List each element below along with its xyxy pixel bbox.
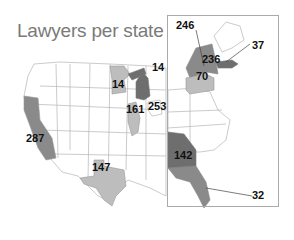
label-illinois: 161 [126, 104, 144, 115]
label-florida: 32 [252, 190, 264, 201]
label-minnesota: 14 [112, 79, 124, 90]
label-pennsylvania: 70 [196, 71, 208, 82]
label-california: 287 [26, 133, 44, 144]
label-ohio: 253 [148, 101, 166, 112]
label-massachusetts: 37 [252, 40, 264, 51]
label-michigan: 14 [152, 62, 164, 73]
label-new-york-upstate: 246 [176, 20, 194, 31]
label-georgia: 142 [174, 150, 192, 161]
label-texas: 147 [92, 162, 110, 173]
label-new-york: 236 [202, 54, 220, 65]
